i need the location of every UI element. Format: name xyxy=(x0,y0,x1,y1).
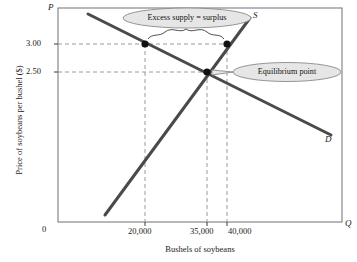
equilibrium-callout-pointer xyxy=(212,70,233,75)
supply-curve-label: S xyxy=(253,10,258,20)
plot-frame xyxy=(58,8,342,222)
demand-curve-label: D xyxy=(325,134,332,144)
xtick-label-20000: 20,000 xyxy=(128,226,151,236)
x-axis-title: Bushels of soybeans xyxy=(58,244,342,254)
marker-demand-at-300 xyxy=(141,40,148,47)
excess-supply-callout-label: Excess supply = surplus xyxy=(123,13,251,22)
xtick-label-40000: 40,000 xyxy=(228,226,251,236)
y-axis-letter: P xyxy=(48,2,54,12)
ytick-label-300: 3.00 xyxy=(26,38,41,48)
supply-curve xyxy=(105,18,250,215)
marker-supply-at-300 xyxy=(223,40,230,47)
chart-canvas xyxy=(0,0,357,262)
equilibrium-callout-label: Equilibrium point xyxy=(233,67,341,76)
ytick-label-250: 2.50 xyxy=(26,66,41,76)
x-axis-letter: Q xyxy=(345,218,352,228)
supply-demand-figure: P Q 0 3.00 2.50 20,000 35,000 40,000 S D… xyxy=(0,0,357,262)
surplus-brace xyxy=(148,29,224,39)
origin-label: 0 xyxy=(42,224,46,234)
y-axis-title: Price of soybeans per bushel ($) xyxy=(14,25,24,215)
xtick-label-35000: 35,000 xyxy=(190,226,213,236)
marker-equilibrium xyxy=(203,68,210,75)
